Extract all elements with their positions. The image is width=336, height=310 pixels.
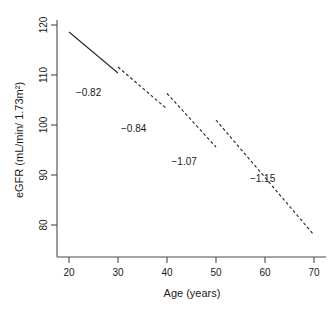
- slope-annotation-1: −0.84: [121, 123, 147, 134]
- y-tick-label-100: 100: [38, 116, 49, 133]
- slope-annotation-2: −1.07: [171, 156, 197, 167]
- x-axis-title: Age (years): [164, 287, 221, 299]
- slope-annotation-3: −1.15: [250, 173, 276, 184]
- slope-annotation-0: −0.82: [76, 87, 102, 98]
- y-axis-title: eGFR (mL/min/ 1.73m²): [13, 82, 25, 198]
- x-tick-label-40: 40: [161, 267, 173, 278]
- x-tick-label-70: 70: [308, 267, 320, 278]
- regression-segment-2: [167, 94, 216, 148]
- x-tick-label-50: 50: [210, 267, 222, 278]
- y-tick-label-80: 80: [38, 219, 49, 231]
- y-tick-label-110: 110: [38, 67, 49, 83]
- x-tick-label-30: 30: [112, 267, 124, 278]
- y-tick-label-120: 120: [38, 16, 49, 33]
- y-tick-label-90: 90: [38, 169, 49, 181]
- y-axis-ticks: [51, 25, 57, 225]
- x-axis-tick-labels: 20 30 40 50 60 70: [63, 267, 320, 278]
- x-tick-label-60: 60: [259, 267, 271, 278]
- regression-segment-0: [69, 32, 118, 73]
- x-tick-label-20: 20: [63, 267, 75, 278]
- regression-segment-1: [118, 67, 167, 109]
- y-axis-tick-labels: 120 110 100 90 80: [38, 16, 49, 230]
- egfr-age-regression-chart: 120 110 100 90 80 eGFR (mL/min/ 1.73m²) …: [0, 0, 336, 310]
- slope-annotations: −0.82−0.84−1.07−1.15: [76, 87, 276, 184]
- chart-figure: 120 110 100 90 80 eGFR (mL/min/ 1.73m²) …: [0, 0, 336, 310]
- x-axis-ticks: [69, 257, 314, 263]
- x-axis: 20 30 40 50 60 70 Age (years): [57, 257, 326, 299]
- y-axis: 120 110 100 90 80 eGFR (mL/min/ 1.73m²): [13, 16, 57, 257]
- regression-segments: [69, 32, 314, 235]
